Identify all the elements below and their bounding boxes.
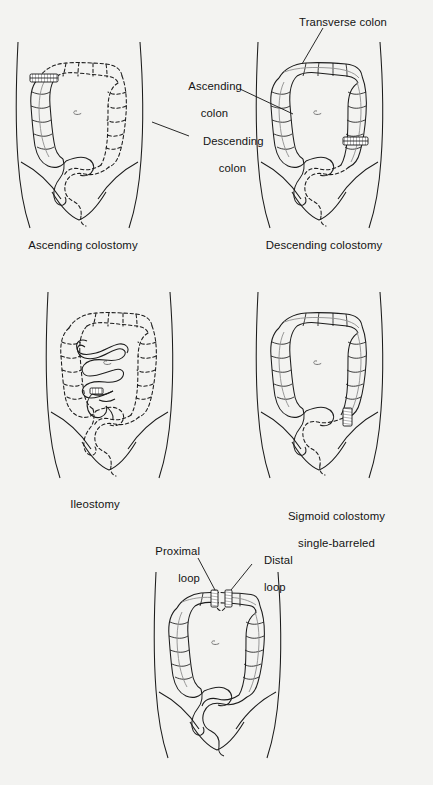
stoma-marker xyxy=(343,408,352,426)
label-distal-loop: Distal loop xyxy=(251,541,311,607)
proximal-loop-line1: Proximal xyxy=(155,545,200,557)
label-proximal-loop: Proximal loop xyxy=(124,532,200,598)
leader-ascending-colon xyxy=(240,89,293,114)
leader-proximal-loop xyxy=(198,558,215,590)
distal-loop-line1: Distal xyxy=(264,554,293,566)
dashed-bowel-segment xyxy=(61,313,157,477)
label-transverse-colon: Transverse colon xyxy=(268,16,418,29)
leader-distal-loop xyxy=(231,564,252,590)
solid-bowel-segment xyxy=(31,76,94,205)
stoma-marker xyxy=(30,74,58,82)
solid-bowel-segment xyxy=(271,313,367,456)
panel-descending-colostomy xyxy=(256,42,383,228)
stoma-marker xyxy=(343,137,368,145)
solid-bowel-segment xyxy=(169,593,265,756)
distal-loop-line2: loop xyxy=(264,581,286,593)
sigmoid-caption-line1: Sigmoid colostomy xyxy=(288,510,385,522)
descending-colon-line1: Descending xyxy=(203,135,264,147)
stoma-marker-distal xyxy=(225,590,232,607)
ascending-colon-line2: colon xyxy=(201,107,229,119)
small-intestine-loops xyxy=(77,340,128,420)
label-descending-colon: Descending colon xyxy=(190,122,262,188)
dashed-bowel-segment xyxy=(303,418,343,475)
panel-ileostomy xyxy=(46,292,173,478)
ostomy-types-figure: Transverse colon Ascending colon Descend… xyxy=(0,0,433,785)
ascending-colon-line1: Ascending xyxy=(188,80,242,92)
panel-sigmoid-colostomy xyxy=(256,292,383,478)
solid-bowel-segment xyxy=(271,63,367,206)
caption-descending-colostomy: Descending colostomy xyxy=(244,239,404,252)
dashed-bowel-segment xyxy=(304,165,349,226)
stoma-marker-proximal xyxy=(211,590,218,607)
panel-ascending-colostomy xyxy=(16,42,143,228)
leader-transverse-colon xyxy=(302,28,323,64)
descending-colon-line2: colon xyxy=(219,162,247,174)
caption-ascending-colostomy: Ascending colostomy xyxy=(8,239,158,252)
proximal-loop-line2: loop xyxy=(178,572,200,584)
stoma-marker xyxy=(90,388,103,394)
dashed-bowel-segment xyxy=(39,63,126,227)
caption-ileostomy: Ileostomy xyxy=(40,498,150,511)
